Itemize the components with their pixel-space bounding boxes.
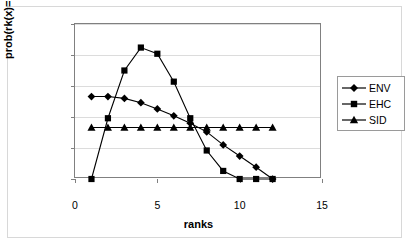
x-tick-label: 15 bbox=[307, 200, 337, 211]
series-sid bbox=[87, 124, 276, 131]
x-tick-label: 5 bbox=[142, 200, 172, 211]
chart-figure: prob(rk(x)=Rk) 00,050,10,150,20,25 05101… bbox=[7, 6, 402, 238]
x-tick-mark bbox=[322, 179, 323, 183]
data-point-square bbox=[138, 44, 144, 50]
series-line bbox=[91, 48, 272, 179]
chart-title bbox=[8, 1, 403, 6]
series-env bbox=[88, 93, 277, 183]
data-point-square bbox=[204, 147, 210, 153]
x-tick-mark bbox=[157, 179, 158, 183]
legend-marker-square-icon bbox=[341, 97, 367, 111]
y-axis-title: prob(rk(x)=Rk) bbox=[2, 0, 14, 59]
data-point-diamond bbox=[88, 93, 96, 101]
legend-label: SID bbox=[367, 113, 387, 127]
x-axis-title: ranks bbox=[75, 218, 322, 230]
data-point-diamond bbox=[252, 163, 260, 171]
series-line bbox=[91, 97, 272, 179]
legend-item-sid[interactable]: SID bbox=[341, 112, 402, 128]
x-tick-mark bbox=[75, 179, 76, 183]
data-point-diamond bbox=[137, 99, 145, 107]
data-point-square bbox=[105, 115, 111, 121]
data-point-square bbox=[270, 176, 276, 182]
data-point-diamond bbox=[121, 95, 129, 103]
data-series-layer bbox=[75, 24, 322, 179]
data-point-diamond bbox=[153, 105, 161, 113]
legend-marker-diamond-icon bbox=[341, 81, 367, 95]
x-tick-label: 10 bbox=[225, 200, 255, 211]
data-point-diamond bbox=[236, 152, 244, 160]
legend-item-ehc[interactable]: EHC bbox=[341, 96, 402, 112]
chart-legend: ENVEHCSID bbox=[337, 76, 405, 131]
legend-label: ENV bbox=[367, 81, 391, 95]
legend-marker-triangle-icon bbox=[341, 113, 367, 127]
x-tick-label: 0 bbox=[60, 200, 90, 211]
data-point-diamond bbox=[104, 93, 112, 101]
data-point-square bbox=[154, 51, 160, 57]
data-point-diamond bbox=[170, 112, 178, 120]
data-point-square bbox=[121, 67, 127, 73]
data-point-square bbox=[171, 79, 177, 85]
data-point-square bbox=[237, 176, 243, 182]
data-point-square bbox=[88, 176, 94, 182]
data-point-square bbox=[253, 176, 259, 182]
data-point-square bbox=[220, 168, 226, 174]
legend-label: EHC bbox=[367, 97, 391, 111]
legend-item-env[interactable]: ENV bbox=[341, 80, 402, 96]
data-point-square bbox=[187, 115, 193, 121]
plot-area: 00,050,10,150,20,25 051015 ranks bbox=[74, 23, 321, 178]
